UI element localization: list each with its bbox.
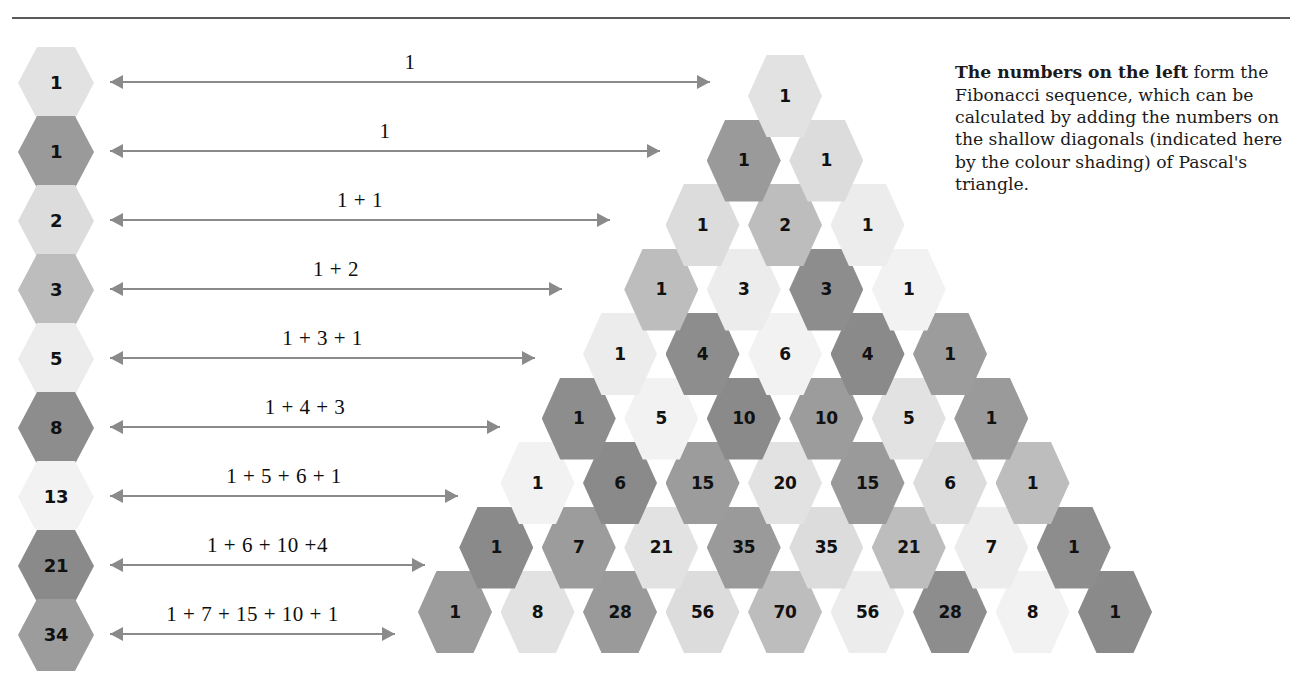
- pascal-hex-value: 70: [773, 604, 796, 621]
- pascal-hex-value: 1: [1068, 539, 1080, 556]
- pascal-hex-value: 15: [856, 475, 879, 492]
- arrow-head-right-icon: [487, 420, 500, 434]
- arrow-head-left-icon: [110, 75, 123, 89]
- figure-canvas: 112358132134 111 + 11 + 21 + 3 + 11 + 4 …: [0, 0, 1302, 694]
- pascal-hex-value: 15: [691, 475, 714, 492]
- pascal-hex-value: 1: [490, 539, 502, 556]
- fibonacci-hex-13-6: 13: [18, 461, 94, 533]
- pascal-hex-value: 6: [779, 346, 791, 363]
- caption-lead: The numbers on the left: [955, 62, 1188, 82]
- pascal-hex-value: 4: [697, 346, 709, 363]
- pascal-hex-value: 6: [614, 475, 626, 492]
- pascal-hex-value: 1: [779, 88, 791, 105]
- diagonal-sum-label: 1 + 5 + 6 + 1: [110, 464, 458, 489]
- pascal-hex-value: 1: [1027, 475, 1039, 492]
- fibonacci-hex-value: 21: [44, 557, 68, 575]
- fibonacci-hex-value: 8: [50, 419, 62, 437]
- fibonacci-hex-34-8: 34: [18, 599, 94, 671]
- fibonacci-hex-5-4: 5: [18, 323, 94, 395]
- fibonacci-hex-value: 34: [44, 626, 68, 644]
- pascal-hex-value: 3: [738, 281, 750, 298]
- arrow-shaft: [110, 564, 425, 566]
- diagonal-sum-label: 1 + 1: [110, 188, 610, 213]
- diagonal-sum-label: 1 + 7 + 15 + 10 + 1: [110, 602, 395, 627]
- pascal-hex-value: 1: [820, 152, 832, 169]
- diagonal-sum-label: 1: [110, 50, 710, 75]
- pascal-hex-value: 3: [820, 281, 832, 298]
- pascal-hex-value: 1: [903, 281, 915, 298]
- fibonacci-hex-3-3: 3: [18, 254, 94, 326]
- pascal-hex-value: 20: [773, 475, 796, 492]
- arrow-head-right-icon: [697, 75, 710, 89]
- pascal-hex-value: 7: [985, 539, 997, 556]
- pascal-hex-value: 2: [779, 217, 791, 234]
- sum-arrow-row-8: 1 + 7 + 15 + 10 + 1: [110, 621, 395, 647]
- arrow-head-left-icon: [110, 489, 123, 503]
- diagonal-sum-label: 1 + 3 + 1: [110, 326, 535, 351]
- diagonal-sum-label: 1 + 6 + 10 +4: [110, 533, 425, 558]
- pascal-hex-value: 1: [573, 410, 585, 427]
- arrow-head-right-icon: [647, 144, 660, 158]
- arrow-head-left-icon: [110, 627, 123, 641]
- fibonacci-hex-1-1: 1: [18, 116, 94, 188]
- arrow-head-right-icon: [597, 213, 610, 227]
- sum-arrow-row-2: 1 + 1: [110, 207, 610, 233]
- arrow-head-left-icon: [110, 213, 123, 227]
- diagonal-sum-label: 1: [110, 119, 660, 144]
- pascal-hex-value: 1: [944, 346, 956, 363]
- sum-arrow-row-6: 1 + 5 + 6 + 1: [110, 483, 458, 509]
- arrow-shaft: [110, 81, 710, 83]
- pascal-hex-value: 4: [862, 346, 874, 363]
- sum-arrow-row-5: 1 + 4 + 3: [110, 414, 500, 440]
- arrow-head-left-icon: [110, 420, 123, 434]
- arrow-shaft: [110, 357, 535, 359]
- pascal-hex-value: 35: [815, 539, 838, 556]
- pascal-hex-value: 8: [532, 604, 544, 621]
- pascal-hex-value: 1: [862, 217, 874, 234]
- pascal-hex-value: 1: [985, 410, 997, 427]
- sum-arrow-row-1: 1: [110, 138, 660, 164]
- pascal-hex-value: 35: [732, 539, 755, 556]
- arrow-head-right-icon: [445, 489, 458, 503]
- fibonacci-hex-value: 13: [44, 488, 68, 506]
- caption-note: The numbers on the left form the Fibonac…: [955, 61, 1285, 195]
- pascal-hex-value: 56: [691, 604, 714, 621]
- pascal-hex-value: 1: [655, 281, 667, 298]
- pascal-hex-value: 10: [815, 410, 838, 427]
- fibonacci-hex-21-7: 21: [18, 530, 94, 602]
- sum-arrow-row-7: 1 + 6 + 10 +4: [110, 552, 425, 578]
- pascal-hex-value: 21: [897, 539, 920, 556]
- top-divider-rule: [12, 17, 1290, 19]
- arrow-head-left-icon: [110, 282, 123, 296]
- arrow-shaft: [110, 426, 500, 428]
- pascal-hex-value: 8: [1027, 604, 1039, 621]
- fibonacci-hex-value: 3: [50, 281, 62, 299]
- sum-arrow-row-3: 1 + 2: [110, 276, 562, 302]
- arrow-shaft: [110, 495, 458, 497]
- arrow-head-left-icon: [110, 351, 123, 365]
- arrow-head-right-icon: [522, 351, 535, 365]
- arrow-shaft: [110, 288, 562, 290]
- pascal-hex-value: 6: [944, 475, 956, 492]
- pascal-hex-value: 10: [732, 410, 755, 427]
- diagonal-sum-label: 1 + 4 + 3: [110, 395, 500, 420]
- fibonacci-hex-value: 2: [50, 212, 62, 230]
- sum-arrow-row-4: 1 + 3 + 1: [110, 345, 535, 371]
- arrow-head-left-icon: [110, 144, 123, 158]
- pascal-hex-value: 1: [738, 152, 750, 169]
- fibonacci-hex-value: 5: [50, 350, 62, 368]
- fibonacci-hex-1-0: 1: [18, 47, 94, 119]
- pascal-hex-value: 1: [532, 475, 544, 492]
- arrow-head-right-icon: [382, 627, 395, 641]
- fibonacci-hex-2-2: 2: [18, 185, 94, 257]
- fibonacci-hex-value: 1: [50, 143, 62, 161]
- pascal-hex-value: 28: [608, 604, 631, 621]
- arrow-head-right-icon: [412, 558, 425, 572]
- pascal-hex-value: 56: [856, 604, 879, 621]
- pascal-hex-value: 5: [903, 410, 915, 427]
- pascal-hex-value: 7: [573, 539, 585, 556]
- pascal-hex-value: 1: [449, 604, 461, 621]
- arrow-shaft: [110, 150, 660, 152]
- sum-arrow-row-0: 1: [110, 69, 710, 95]
- pascal-hex-value: 28: [938, 604, 961, 621]
